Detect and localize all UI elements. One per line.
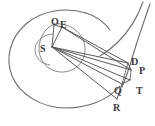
point-label-T: T xyxy=(136,86,143,96)
edge-p-to-t xyxy=(130,70,131,80)
right-steep-arc xyxy=(122,4,150,87)
point-label-E: E xyxy=(60,20,67,30)
point-label-P: P xyxy=(139,66,145,76)
outer-spiral-upper xyxy=(86,13,110,30)
edge-q-to-t xyxy=(122,80,130,84)
chord-s-to-t xyxy=(52,47,130,80)
point-label-R: R xyxy=(113,103,120,113)
outer-spiral-curve xyxy=(100,2,143,56)
point-label-S: S xyxy=(40,44,46,54)
chord-s-to-q xyxy=(52,47,122,84)
point-label-D: D xyxy=(131,57,138,67)
geometry-figure: O E S D P T Q R xyxy=(0,0,155,126)
point-label-O: O xyxy=(51,17,59,27)
point-label-Q: Q xyxy=(114,86,122,96)
